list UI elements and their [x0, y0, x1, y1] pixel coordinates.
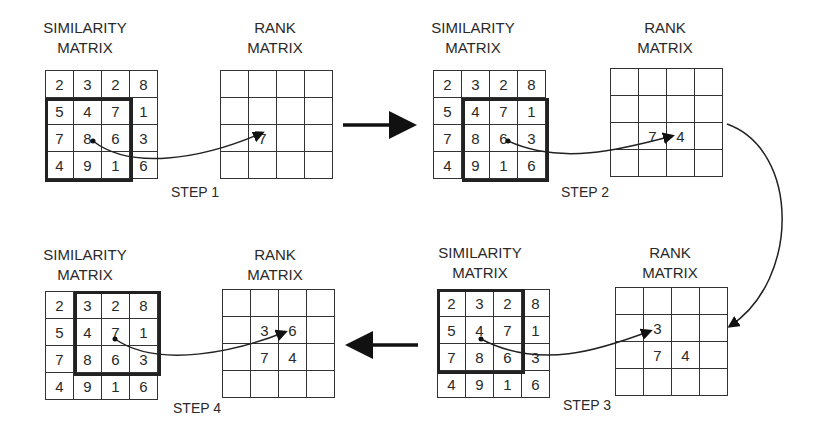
flow-arrows	[0, 0, 826, 430]
